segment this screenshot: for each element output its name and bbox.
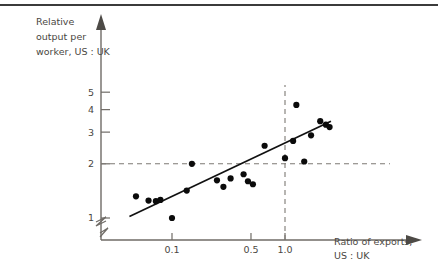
data-point — [220, 184, 226, 190]
data-point — [227, 175, 233, 181]
data-point — [189, 161, 195, 167]
data-point — [293, 102, 299, 108]
x-tick-label: 0.1 — [164, 244, 179, 255]
y-tick-group: 12345 — [88, 87, 110, 224]
data-point — [317, 118, 323, 124]
y-axis-title-line-1: Relative — [36, 16, 74, 27]
data-point — [326, 124, 332, 130]
y-tick-label: 1 — [88, 212, 94, 223]
x-axis-title-line-1: Ratio of exports, — [334, 236, 412, 247]
x-axis-title: Ratio of exports, US : UK — [334, 236, 412, 261]
data-point — [214, 177, 220, 183]
data-point — [301, 158, 307, 164]
data-point — [184, 187, 190, 193]
y-tick-label: 4 — [88, 104, 94, 115]
y-axis-arrowhead — [96, 14, 106, 30]
data-point — [145, 197, 151, 203]
y-axis-title-line-2: output per — [36, 31, 86, 42]
y-tick-label: 2 — [88, 158, 94, 169]
x-tick-group: 0.10.51.0 — [164, 233, 292, 255]
data-point — [250, 181, 256, 187]
y-tick-label: 5 — [88, 87, 94, 98]
figure-container: 12345 0.10.51.0 Relative output per work… — [0, 0, 438, 270]
y-tick-label: 3 — [88, 127, 94, 138]
data-point — [262, 143, 268, 149]
data-point — [169, 215, 175, 221]
data-point — [240, 171, 246, 177]
y-axis-title-line-3: worker, US : UK — [36, 46, 111, 57]
data-point-group — [133, 102, 333, 221]
x-tick-label: 0.5 — [243, 244, 258, 255]
data-point — [133, 193, 139, 199]
data-point — [157, 197, 163, 203]
x-axis-title-line-2: US : UK — [334, 250, 370, 261]
data-point — [282, 155, 288, 161]
x-tick-label: 1.0 — [277, 244, 292, 255]
data-point — [308, 132, 314, 138]
scatter-plot: 12345 0.10.51.0 Relative output per work… — [0, 0, 438, 270]
data-point — [290, 138, 296, 144]
